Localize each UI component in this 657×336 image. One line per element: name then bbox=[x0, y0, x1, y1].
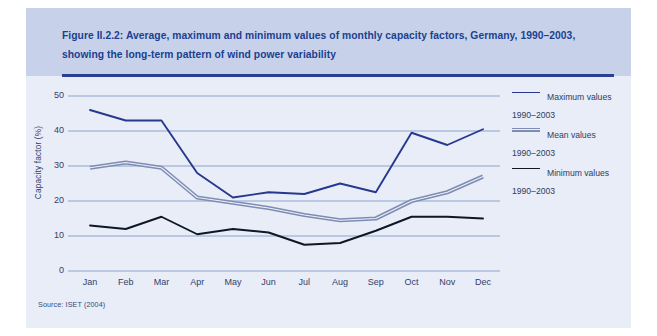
legend-minimum: Minimum values 1990–2003 bbox=[512, 162, 642, 198]
x-tick-jul: Jul bbox=[284, 277, 324, 287]
legend-mean-label: Mean values 1990–2003 bbox=[512, 130, 596, 158]
x-tick-aug: Aug bbox=[320, 277, 360, 287]
x-tick-jan: Jan bbox=[70, 277, 110, 287]
x-tick-may: May bbox=[213, 277, 253, 287]
x-tick-feb: Feb bbox=[106, 277, 146, 287]
y-tick-40: 40 bbox=[40, 125, 64, 135]
series-line-1-highlight bbox=[90, 163, 483, 221]
legend-maximum-swatch-icon bbox=[512, 92, 540, 94]
figure-container: Figure II.2.2: Average, maximum and mini… bbox=[0, 0, 657, 336]
y-tick-50: 50 bbox=[40, 90, 64, 100]
legend-minimum-swatch-icon bbox=[512, 168, 540, 170]
x-tick-sep: Sep bbox=[356, 277, 396, 287]
x-tick-nov: Nov bbox=[427, 277, 467, 287]
series-line-2 bbox=[90, 217, 483, 245]
legend-minimum-label: Minimum values 1990–2003 bbox=[512, 168, 609, 196]
y-tick-20: 20 bbox=[40, 195, 64, 205]
legend-maximum-label: Maximum values 1990–2003 bbox=[512, 92, 611, 120]
source-note: Source: ISET (2004) bbox=[38, 300, 105, 309]
y-tick-0: 0 bbox=[40, 265, 64, 275]
legend-mean: Mean values 1990–2003 bbox=[512, 124, 642, 160]
legend-mean-swatch-icon bbox=[512, 128, 540, 132]
legend-maximum: Maximum values 1990–2003 bbox=[512, 86, 642, 122]
y-tick-10: 10 bbox=[40, 230, 64, 240]
chart-legend: Maximum values 1990–2003Mean values 1990… bbox=[512, 86, 642, 200]
x-tick-apr: Apr bbox=[177, 277, 217, 287]
series-line-0 bbox=[90, 110, 483, 198]
x-tick-oct: Oct bbox=[392, 277, 432, 287]
x-tick-dec: Dec bbox=[463, 277, 503, 287]
x-tick-jun: Jun bbox=[249, 277, 289, 287]
y-tick-30: 30 bbox=[40, 160, 64, 170]
x-tick-mar: Mar bbox=[141, 277, 181, 287]
